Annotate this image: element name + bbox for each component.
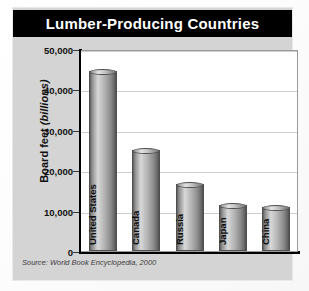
y-axis-tick-label: 20,000 xyxy=(27,166,73,177)
bar-cap xyxy=(219,203,247,209)
y-axis-tick-label: 10,000 xyxy=(27,206,73,217)
bar-russia[interactable]: Russia xyxy=(176,184,204,251)
y-axis-tick-mark xyxy=(73,171,79,172)
bar-cap xyxy=(89,69,117,75)
chart-title-bar: Lumber-Producing Countries xyxy=(13,10,292,37)
bar-united-states[interactable]: United States xyxy=(89,71,117,251)
y-axis-tick-label: 40,000 xyxy=(27,85,73,96)
chart-figure: Lumber-Producing Countries Board feet (b… xyxy=(0,0,309,291)
y-axis-tick-label: 0 xyxy=(27,247,73,258)
plot-area: United StatesCanadaRussiaJapanChina xyxy=(81,50,298,252)
y-axis-tick-label: 50,000 xyxy=(27,45,73,56)
bar-label: Canada xyxy=(130,211,141,245)
y-axis-tick-mark xyxy=(73,50,79,51)
y-axis-tick-label: 30,000 xyxy=(27,125,73,136)
bar-china[interactable]: China xyxy=(262,207,290,251)
y-axis-tick-mark xyxy=(73,90,79,91)
bar-canada[interactable]: Canada xyxy=(132,150,160,251)
y-axis-tick-mark xyxy=(73,252,79,253)
y-axis-tick-mark xyxy=(73,212,79,213)
bar-cap xyxy=(262,205,290,211)
y-axis-tick-labels: 50,00040,00030,00020,00010,0000 xyxy=(21,37,73,280)
gridline xyxy=(81,51,297,52)
page-title: Lumber-Producing Countries xyxy=(46,15,260,32)
bar-cap xyxy=(132,148,160,154)
y-axis-tick-mark xyxy=(73,131,79,132)
source-note: Source: World Book Encyclopedia, 2000 xyxy=(22,258,156,267)
chart-body: Board feet (billions) 50,00040,00030,000… xyxy=(13,37,292,280)
bar-label: Japan xyxy=(217,218,228,245)
bar-cap xyxy=(176,182,204,188)
bar-label: Russia xyxy=(174,214,185,245)
bar-japan[interactable]: Japan xyxy=(219,205,247,251)
bar-label: United States xyxy=(87,184,98,245)
bar-label: China xyxy=(260,219,271,245)
